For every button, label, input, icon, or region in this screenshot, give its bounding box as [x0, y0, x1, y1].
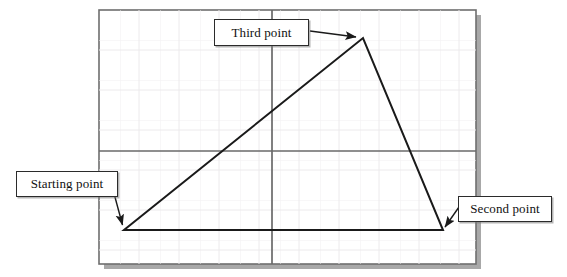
callout-second-point: Second point [458, 196, 552, 222]
callout-starting-point-label: Starting point [31, 176, 104, 192]
callout-second-point-label: Second point [470, 201, 539, 217]
background-grid [99, 10, 476, 264]
callout-starting-point: Starting point [16, 171, 118, 197]
callout-third-point: Third point [214, 19, 309, 46]
callout-third-point-label: Third point [232, 25, 292, 41]
figure-screenshot: Third point Starting point Second point [0, 0, 567, 277]
